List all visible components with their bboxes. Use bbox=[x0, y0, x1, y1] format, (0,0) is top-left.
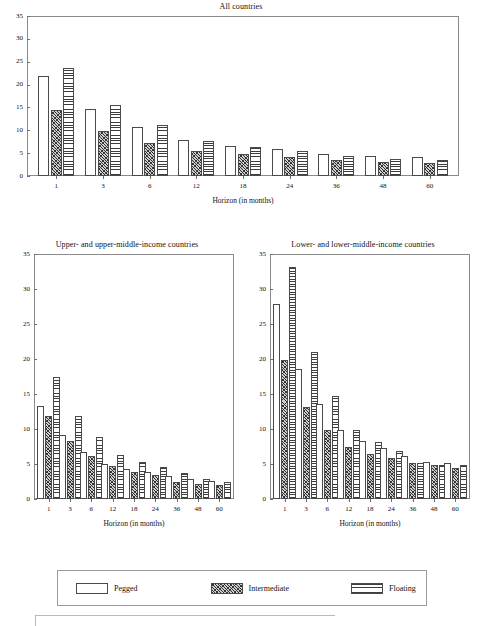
bar-pegged bbox=[359, 441, 366, 499]
bar-floating bbox=[63, 68, 74, 176]
page-bottom-rule bbox=[35, 615, 335, 626]
y-axis-tick-mark bbox=[27, 85, 30, 86]
y-axis-tick-mark bbox=[27, 153, 30, 154]
chart-title: Upper- and upper-middle-income countries bbox=[8, 240, 246, 249]
bar-pegged bbox=[144, 472, 151, 499]
bar-intermediate bbox=[238, 154, 249, 176]
bar-floating bbox=[110, 105, 121, 176]
bar-pegged bbox=[165, 476, 172, 499]
x-axis-tick-mark bbox=[349, 499, 350, 502]
bar-intermediate bbox=[191, 151, 202, 176]
chart-panel-lower-income: Lower- and lower-middle-income countries… bbox=[244, 240, 482, 545]
y-axis-tick-mark bbox=[27, 130, 30, 131]
x-axis-tick-mark bbox=[103, 176, 104, 179]
bar-pegged bbox=[59, 435, 66, 499]
legend-label-intermediate: Intermediate bbox=[249, 584, 289, 593]
bar-intermediate bbox=[331, 160, 342, 176]
x-axis-tick-mark bbox=[113, 499, 114, 502]
bar-intermediate bbox=[88, 456, 95, 499]
legend-label-floating: Floating bbox=[389, 584, 416, 593]
bar-pegged bbox=[225, 146, 236, 176]
chart-title: Lower- and lower-middle-income countries bbox=[244, 240, 482, 249]
x-axis-tick-label: 60 bbox=[416, 183, 444, 190]
y-axis-tick-label: 0 bbox=[3, 173, 23, 180]
y-axis-tick-label: 10 bbox=[10, 426, 30, 433]
x-axis-tick-mark bbox=[70, 499, 71, 502]
bar-intermediate bbox=[378, 162, 389, 176]
bar-intermediate bbox=[131, 472, 138, 499]
y-axis-tick-label: 10 bbox=[3, 127, 23, 134]
bar-floating bbox=[157, 125, 168, 176]
x-axis-tick-label: 1 bbox=[42, 183, 70, 190]
y-axis-tick-mark bbox=[34, 499, 37, 500]
bar-pegged bbox=[80, 452, 87, 499]
y-axis-tick-label: 5 bbox=[10, 461, 30, 468]
x-axis-label: Horizon (in months) bbox=[27, 196, 459, 205]
legend-label-pegged: Pegged bbox=[114, 584, 138, 593]
legend: Pegged Intermediate Floating bbox=[57, 570, 427, 606]
bar-pegged bbox=[423, 462, 430, 499]
bar-pegged bbox=[187, 479, 194, 499]
x-axis-tick-mark bbox=[196, 176, 197, 179]
bar-intermediate bbox=[152, 475, 159, 499]
bar-pegged bbox=[316, 404, 323, 499]
bar-intermediate bbox=[424, 163, 435, 176]
y-axis-tick-label: 15 bbox=[3, 104, 23, 111]
x-axis-label: Horizon (in months) bbox=[270, 519, 470, 528]
x-axis-tick-label: 24 bbox=[276, 183, 304, 190]
bar-pegged bbox=[412, 157, 423, 176]
bar-floating bbox=[460, 465, 467, 499]
bar-intermediate bbox=[388, 458, 395, 499]
bar-pegged bbox=[123, 469, 130, 499]
legend-swatch-intermediate bbox=[211, 583, 243, 594]
x-axis-tick-mark bbox=[327, 499, 328, 502]
y-axis-tick-mark bbox=[34, 254, 37, 255]
y-axis-tick-mark bbox=[27, 62, 30, 63]
x-axis-tick-mark bbox=[155, 499, 156, 502]
bar-intermediate bbox=[45, 416, 52, 499]
bar-pegged bbox=[444, 463, 451, 499]
y-axis-tick-label: 25 bbox=[10, 321, 30, 328]
y-axis-tick-mark bbox=[34, 324, 37, 325]
bar-pegged bbox=[272, 149, 283, 176]
bar-pegged bbox=[380, 448, 387, 499]
bar-pegged bbox=[38, 76, 49, 176]
plot-area-upper-income: 05101520253035136121824364860Horizon (in… bbox=[8, 252, 246, 545]
x-axis-tick-label: 6 bbox=[136, 183, 164, 190]
y-axis-tick-mark bbox=[27, 16, 30, 17]
bar-pegged bbox=[337, 430, 344, 499]
x-axis-tick-mark bbox=[290, 176, 291, 179]
x-axis-tick-label: 3 bbox=[89, 183, 117, 190]
bar-intermediate bbox=[144, 143, 155, 176]
bar-pegged bbox=[178, 140, 189, 176]
x-axis-tick-label: 36 bbox=[322, 183, 350, 190]
bar-pegged bbox=[273, 304, 280, 499]
chart-panel-all-countries: All countries 05101520253035136121824364… bbox=[0, 2, 482, 207]
y-axis-tick-mark bbox=[27, 39, 30, 40]
bar-floating bbox=[250, 147, 261, 176]
bar-intermediate bbox=[345, 447, 352, 499]
y-axis-tick-label: 35 bbox=[3, 13, 23, 20]
x-axis-tick-mark bbox=[243, 176, 244, 179]
legend-swatch-pegged bbox=[76, 583, 108, 594]
x-axis-tick-label: 18 bbox=[229, 183, 257, 190]
x-axis-tick-mark bbox=[49, 499, 50, 502]
y-axis-tick-label: 25 bbox=[3, 58, 23, 65]
bar-intermediate bbox=[67, 441, 74, 499]
y-axis-tick-label: 20 bbox=[10, 356, 30, 363]
bar-intermediate bbox=[173, 482, 180, 500]
x-axis-tick-label: 60 bbox=[205, 506, 233, 513]
legend-item-floating: Floating bbox=[351, 583, 416, 594]
bar-pegged bbox=[37, 406, 44, 499]
y-axis-tick-label: 5 bbox=[3, 150, 23, 157]
bar-intermediate bbox=[51, 110, 62, 176]
y-axis-tick-mark bbox=[27, 176, 30, 177]
bar-intermediate bbox=[303, 407, 310, 499]
y-axis-tick-label: 25 bbox=[246, 321, 266, 328]
y-axis-tick-label: 0 bbox=[246, 496, 266, 503]
bar-intermediate bbox=[281, 360, 288, 499]
bar-pegged bbox=[365, 156, 376, 176]
y-axis-tick-label: 20 bbox=[3, 81, 23, 88]
bar-floating bbox=[390, 159, 401, 176]
x-axis-tick-mark bbox=[198, 499, 199, 502]
